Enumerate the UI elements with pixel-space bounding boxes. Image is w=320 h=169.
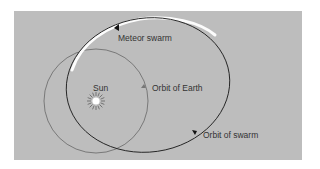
sun-icon <box>87 92 105 110</box>
label-orbit-earth: Orbit of Earth <box>152 84 203 93</box>
label-orbit-swarm: Orbit of swarm <box>203 131 258 140</box>
label-meteor-swarm: Meteor swarm <box>118 34 172 43</box>
label-sun: Sun <box>93 84 108 93</box>
meteor-swarm-highlight <box>72 18 215 70</box>
swarm-direction-arrow-bottom <box>192 130 197 135</box>
